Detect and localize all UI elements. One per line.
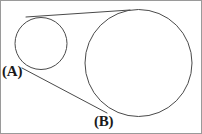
lower-tangent-line (22, 68, 107, 113)
point-b-label: (B) (94, 114, 113, 129)
upper-tangent-line (26, 10, 130, 17)
geometry-figure: (A) (B) (0, 0, 202, 134)
small-circle (15, 18, 67, 70)
large-circle (85, 10, 192, 117)
point-a-label: (A) (2, 64, 22, 79)
